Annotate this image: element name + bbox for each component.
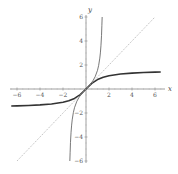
x-tick-label: −6 xyxy=(13,91,22,98)
x-tick-label: −4 xyxy=(36,91,45,98)
y-tick-label: −6 xyxy=(74,157,83,164)
x-tick-label: 2 xyxy=(107,91,111,98)
x-axis-label: x xyxy=(168,85,172,93)
x-tick-label: 6 xyxy=(153,91,157,98)
y-tick-label: 4 xyxy=(79,37,83,44)
y-tick-label: 2 xyxy=(79,61,83,68)
y-tick-label: −2 xyxy=(74,109,83,116)
x-tick-label: 4 xyxy=(130,91,134,98)
y-tick-label: −4 xyxy=(74,133,83,140)
x-tick-label: −2 xyxy=(59,91,68,98)
y-axis-label: y xyxy=(87,6,93,14)
y-tick-label: 6 xyxy=(79,13,83,20)
function-plot: −6−4−2246 −6−4−2246 x y xyxy=(0,0,178,174)
